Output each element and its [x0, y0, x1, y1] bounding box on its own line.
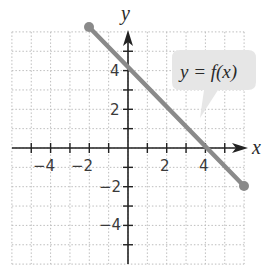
function-callout: y = f(x): [172, 50, 256, 118]
y-axis-label: y: [119, 2, 130, 25]
tick-label-x-2: 2: [160, 157, 170, 175]
coordinate-plane: x y −4 −2 2 4 4 2 −2 −4 y = f(x): [0, 0, 264, 272]
tick-label-y-2: 2: [110, 101, 120, 119]
tick-label-x-4: 4: [199, 157, 209, 175]
tick-label-y-neg2: −2: [99, 178, 121, 196]
callout-label: y = f(x): [178, 61, 237, 83]
tick-label-x-neg4: −4: [33, 157, 55, 175]
tick-label-x-neg2: −2: [71, 157, 93, 175]
endpoint-end: [239, 181, 249, 191]
tick-label-y-neg4: −4: [99, 216, 121, 234]
endpoint-start: [84, 22, 94, 32]
x-axis-label: x: [251, 136, 261, 158]
tick-label-y-4: 4: [110, 62, 120, 80]
